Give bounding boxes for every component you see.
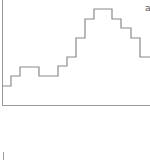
step-chart xyxy=(0,0,150,161)
step-series-line xyxy=(2,9,150,86)
corner-annotation-label: a xyxy=(145,4,150,13)
